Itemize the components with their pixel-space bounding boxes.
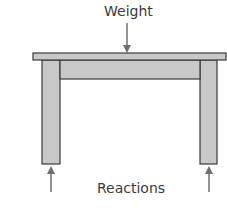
table-apron <box>60 60 200 79</box>
table-diagram <box>0 0 227 208</box>
tabletop <box>33 53 226 60</box>
reactions-label: Reactions <box>97 180 165 196</box>
left-leg <box>42 60 60 164</box>
weight-label: Weight <box>104 3 153 19</box>
right-leg <box>200 60 217 164</box>
